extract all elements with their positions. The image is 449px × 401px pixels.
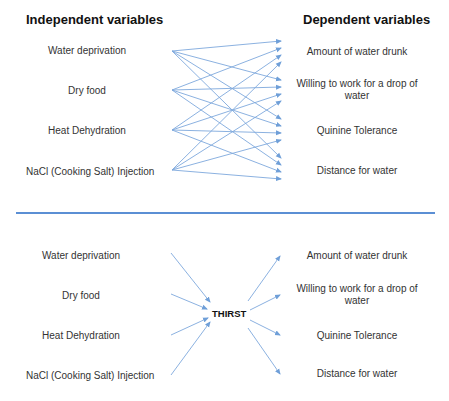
section-divider <box>16 212 435 214</box>
bottom-independent-heat-dehydration: Heat Dehydration <box>26 330 136 342</box>
bottom-dependent-distance-for-water: Distance for water <box>292 368 422 380</box>
thirst-intervening-variable: THIRST <box>212 308 246 319</box>
bottom-dependent-amount-of-water-drunk: Amount of water drunk <box>292 250 422 262</box>
bottom-dependent-quinine-tolerance: Quinine Tolerance <box>292 330 422 342</box>
bottom-dependent-willing-to-work: Willing to work for a drop of water <box>294 283 420 307</box>
bottom-independent-water-deprivation: Water deprivation <box>26 250 136 262</box>
bottom-independent-dry-food: Dry food <box>26 290 136 302</box>
bottom-independent-nacl-injection: NaCl (Cooking Salt) Injection <box>26 370 171 382</box>
